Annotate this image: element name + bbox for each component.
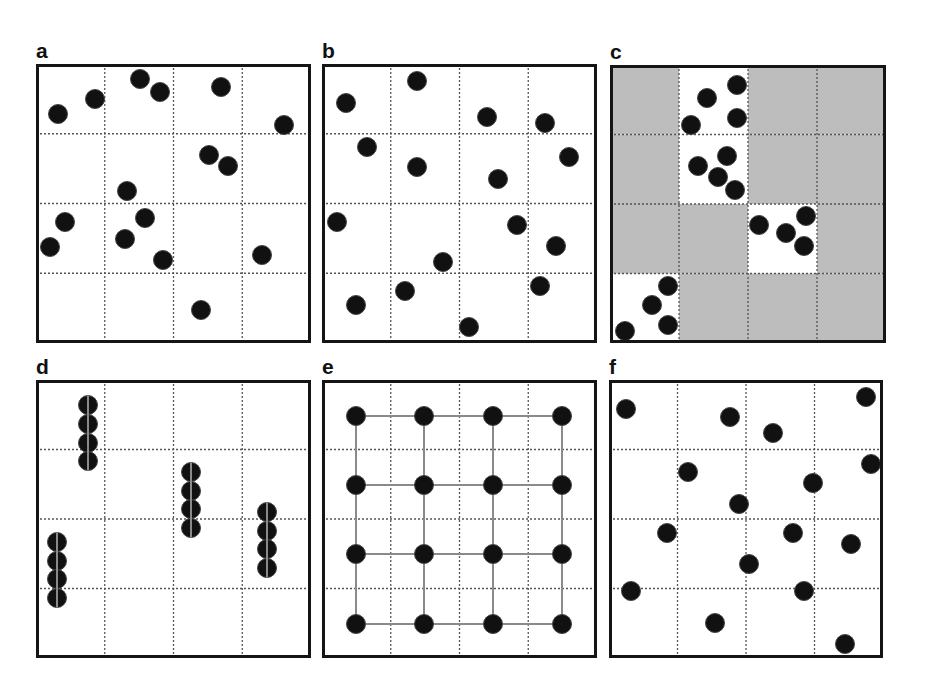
dot — [740, 555, 759, 574]
panel-b-plot — [322, 64, 597, 343]
panel-label-b: b — [322, 40, 335, 61]
dot — [617, 400, 636, 419]
dot — [658, 524, 677, 543]
dot — [643, 296, 662, 315]
dot — [212, 78, 231, 97]
dot — [795, 582, 814, 601]
panel-a — [36, 64, 311, 343]
panel-c — [610, 65, 886, 343]
panel-c-plot — [610, 65, 886, 343]
shaded-cell — [748, 135, 817, 205]
dot — [434, 253, 453, 272]
shaded-cell — [817, 274, 886, 344]
dot — [484, 476, 503, 495]
panel-f — [609, 380, 883, 658]
dot — [415, 407, 434, 426]
dot — [347, 615, 366, 634]
dot — [679, 463, 698, 482]
panel-b — [322, 64, 597, 343]
dot — [275, 116, 294, 135]
dot — [718, 147, 737, 166]
panel-label-a: a — [36, 40, 48, 61]
panel-label-f: f — [609, 356, 616, 377]
dot — [328, 213, 347, 232]
dot — [709, 168, 728, 187]
dot — [728, 76, 747, 95]
shaded-cell — [679, 204, 748, 274]
dot — [777, 224, 796, 243]
dot — [764, 424, 783, 443]
dot — [408, 72, 427, 91]
dot — [553, 545, 572, 564]
shaded-cell — [679, 274, 748, 344]
dot — [347, 476, 366, 495]
dot — [484, 545, 503, 564]
dot — [531, 277, 550, 296]
dot — [689, 157, 708, 176]
dot — [489, 170, 508, 189]
dot — [698, 89, 717, 108]
dot — [682, 116, 701, 135]
dot — [478, 108, 497, 127]
dot — [396, 282, 415, 301]
shaded-cell — [817, 135, 886, 205]
dot — [131, 70, 150, 89]
shaded-cell — [610, 65, 679, 135]
dot — [795, 237, 814, 256]
dot — [560, 148, 579, 167]
dot — [136, 209, 155, 228]
dot — [862, 455, 881, 474]
dot — [536, 114, 555, 133]
dot — [804, 474, 823, 493]
dot — [659, 316, 678, 335]
shaded-cell — [817, 204, 886, 274]
dot — [616, 322, 635, 341]
panel-a-plot — [36, 64, 311, 343]
dot — [56, 213, 75, 232]
dot — [118, 182, 137, 201]
panel-f-plot — [609, 380, 883, 658]
dot — [154, 251, 173, 270]
dot — [408, 158, 427, 177]
dot — [49, 105, 68, 124]
dot — [253, 246, 272, 265]
dot — [116, 230, 135, 249]
dot — [86, 90, 105, 109]
dot — [484, 615, 503, 634]
dot — [784, 524, 803, 543]
dot — [842, 535, 861, 554]
dot — [553, 407, 572, 426]
dot — [415, 545, 434, 564]
panel-label-d: d — [36, 356, 49, 377]
dot — [460, 318, 479, 337]
dot — [415, 615, 434, 634]
dot — [730, 495, 749, 514]
dot — [484, 407, 503, 426]
dot — [219, 157, 238, 176]
dot — [836, 635, 855, 654]
panel-label-c: c — [610, 41, 622, 62]
dot — [797, 207, 816, 226]
dot — [358, 138, 377, 157]
shaded-cell — [610, 135, 679, 205]
shaded-cell — [748, 274, 817, 344]
shaded-cell — [610, 204, 679, 274]
dot — [347, 407, 366, 426]
dot — [553, 615, 572, 634]
dot — [337, 94, 356, 113]
dot — [706, 614, 725, 633]
panel-e-plot — [322, 380, 597, 658]
dot — [151, 83, 170, 102]
dot — [659, 277, 678, 296]
dot — [547, 237, 566, 256]
dot — [857, 388, 876, 407]
dot — [622, 582, 641, 601]
dot — [192, 301, 211, 320]
dot — [347, 545, 366, 564]
dot — [750, 216, 769, 235]
dot — [415, 476, 434, 495]
shaded-cell — [817, 65, 886, 135]
dot — [728, 109, 747, 128]
dot — [347, 296, 366, 315]
panel-d — [36, 380, 311, 658]
